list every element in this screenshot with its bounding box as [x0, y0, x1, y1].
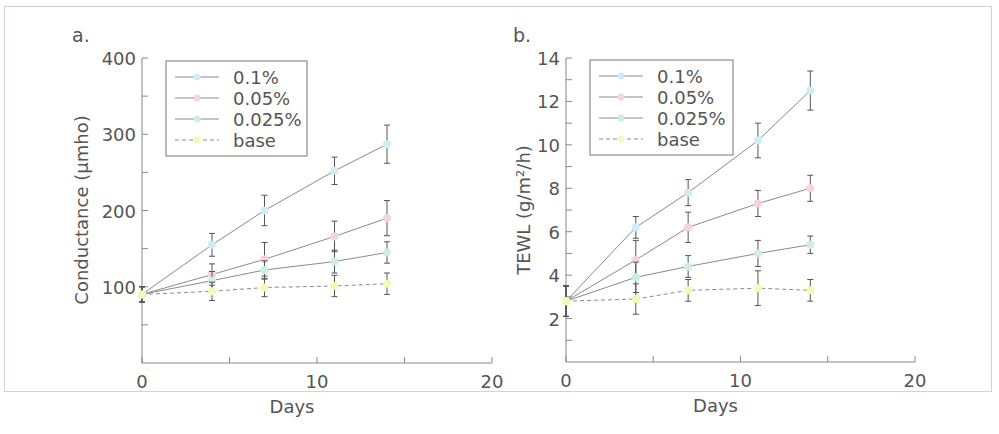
legend-marker: [194, 95, 201, 102]
data-point-marker: [754, 199, 762, 207]
legend-marker: [194, 137, 201, 144]
y-tick-label: 2: [549, 309, 560, 330]
data-point-marker: [754, 284, 762, 292]
legend-marker: [618, 73, 625, 80]
panel-b-plot-area: 246810121401020DaysTEWL (g/m²/h)0.1%0.05…: [513, 48, 926, 416]
x-tick-label: 0: [136, 371, 147, 392]
data-point-marker: [383, 248, 391, 256]
data-point-marker: [806, 286, 814, 294]
panel-a: a. 10020030040001020DaysConductance (μmh…: [71, 24, 503, 417]
x-tick-label: 20: [481, 371, 504, 392]
legend: 0.1%0.05%0.025%base: [166, 61, 307, 156]
panel-a-plot-area: 10020030040001020DaysConductance (μmho)0…: [71, 48, 503, 417]
y-tick-label: 400: [102, 48, 136, 69]
x-tick-label: 10: [306, 371, 329, 392]
legend-label: 0.1%: [657, 66, 703, 87]
y-axis-label: TEWL (g/m²/h): [513, 145, 534, 276]
data-point-marker: [208, 287, 216, 295]
data-point-marker: [261, 284, 269, 292]
y-tick-label: 8: [549, 178, 560, 199]
y-tick-label: 14: [537, 48, 560, 69]
data-point-marker: [684, 189, 692, 197]
y-tick-label: 10: [537, 135, 560, 156]
data-point-marker: [632, 273, 640, 281]
figure-canvas: a. 10020030040001020DaysConductance (μmh…: [0, 0, 999, 434]
x-tick-label: 10: [729, 370, 752, 391]
data-point-marker: [684, 223, 692, 231]
data-point-marker: [806, 184, 814, 192]
data-point-marker: [138, 290, 146, 298]
panel-b: b. 246810121401020DaysTEWL (g/m²/h)0.1%0…: [513, 24, 926, 416]
legend-label: base: [657, 129, 700, 150]
legend-marker: [618, 136, 625, 143]
data-point-marker: [383, 280, 391, 288]
data-point-marker: [754, 249, 762, 257]
panel-a-label: a.: [72, 24, 90, 46]
data-point-marker: [806, 87, 814, 95]
legend-label: 0.1%: [233, 67, 279, 88]
data-point-marker: [632, 223, 640, 231]
legend-label: 0.025%: [657, 108, 726, 129]
data-point-marker: [562, 297, 570, 305]
data-point-marker: [331, 258, 339, 266]
data-point-marker: [208, 241, 216, 249]
x-axis-label: Days: [693, 395, 738, 416]
legend-marker: [618, 94, 625, 101]
legend-marker: [194, 74, 201, 81]
data-point-marker: [261, 266, 269, 274]
data-point-marker: [331, 232, 339, 240]
x-tick-label: 0: [560, 370, 571, 391]
data-point-marker: [806, 241, 814, 249]
panel-b-label: b.: [513, 24, 531, 46]
legend-marker: [618, 115, 625, 122]
y-tick-label: 6: [549, 222, 560, 243]
data-point-marker: [632, 295, 640, 303]
x-axis-label: Days: [270, 396, 315, 417]
data-point-marker: [383, 214, 391, 222]
data-point-marker: [261, 207, 269, 215]
x-tick-label: 20: [904, 370, 927, 391]
series-0.025%: [562, 236, 814, 316]
data-point-marker: [754, 137, 762, 145]
legend-label: 0.025%: [233, 109, 302, 130]
data-point-marker: [331, 167, 339, 175]
data-point-marker: [383, 140, 391, 148]
y-tick-label: 200: [102, 201, 136, 222]
y-tick-label: 300: [102, 124, 136, 145]
legend-label: 0.05%: [657, 87, 714, 108]
y-tick-label: 4: [549, 265, 560, 286]
legend: 0.1%0.05%0.025%base: [590, 60, 733, 155]
data-point-marker: [331, 282, 339, 290]
y-axis-label: Conductance (μmho): [71, 115, 92, 304]
data-point-marker: [684, 286, 692, 294]
legend-marker: [194, 116, 201, 123]
data-point-marker: [684, 262, 692, 270]
legend-label: base: [233, 130, 276, 151]
y-tick-label: 12: [537, 91, 560, 112]
legend-label: 0.05%: [233, 88, 290, 109]
y-tick-label: 100: [102, 277, 136, 298]
